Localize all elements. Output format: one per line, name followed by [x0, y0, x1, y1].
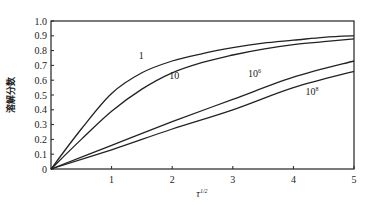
curve-label: 10 [169, 70, 179, 81]
y-tick-label: 0.2 [35, 134, 48, 145]
y-tick-label: 0.5 [35, 90, 48, 101]
curve-10e6 [51, 61, 354, 169]
curve-label: 106 [248, 68, 261, 79]
x-axis-label: τ1/2 [196, 188, 207, 199]
curve-10 [51, 39, 354, 169]
y-tick-label: 0 [42, 164, 47, 175]
y-axis-label: 溶解分数 [5, 76, 16, 113]
x-tick-label: 4 [291, 174, 296, 185]
x-tick-label: 3 [230, 174, 235, 185]
y-tick-label: 1.0 [35, 16, 48, 27]
y-tick-label: 0.6 [35, 75, 48, 86]
y-tick-label: 0.7 [35, 60, 48, 71]
chart: 00.10.20.30.40.50.60.70.80.91.012345 110… [0, 0, 371, 205]
y-tick-label: 0.8 [35, 45, 48, 56]
data-series [51, 36, 354, 169]
y-tick-label: 0.1 [35, 149, 48, 160]
curve-1 [51, 36, 354, 169]
curve-labels: 110106108 [139, 50, 319, 97]
curve-label: 108 [306, 86, 319, 97]
y-tick-label: 0.3 [35, 119, 48, 130]
y-tick-label: 0.9 [35, 30, 48, 41]
x-tick-label: 2 [170, 174, 175, 185]
y-tick-label: 0.4 [35, 104, 48, 115]
x-tick-label: 1 [109, 174, 114, 185]
curve-label: 1 [139, 50, 144, 61]
x-tick-label: 5 [352, 174, 357, 185]
